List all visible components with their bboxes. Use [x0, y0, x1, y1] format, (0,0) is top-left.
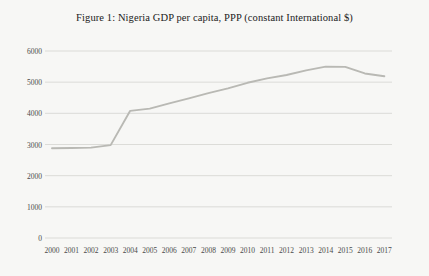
figure-container: Figure 1: Nigeria GDP per capita, PPP (c… — [0, 0, 429, 276]
series-gdp-per-capita — [52, 67, 384, 149]
data-series-line — [0, 0, 429, 276]
